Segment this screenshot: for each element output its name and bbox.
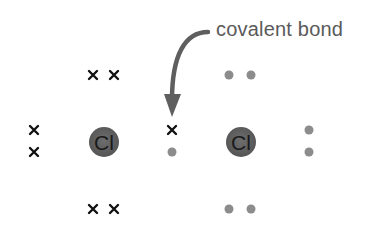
arrow-icon (164, 32, 208, 117)
atom-cl-right: Cl (226, 127, 256, 157)
svg-text:Cl: Cl (231, 131, 251, 154)
covalent-bond-label: covalent bond (216, 18, 343, 41)
diagram-canvas: Cl Cl covalent bond (0, 0, 366, 233)
svg-text:Cl: Cl (94, 131, 114, 154)
atom-cl-left: Cl (89, 127, 119, 157)
